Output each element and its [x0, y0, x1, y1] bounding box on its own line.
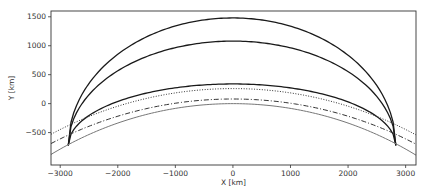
series-trajectory-low — [68, 84, 396, 145]
x-tick-label: 1000 — [281, 169, 300, 178]
y-axis-label: Y [km] — [7, 76, 16, 102]
series-ground — [51, 104, 416, 156]
y-tick-label: −500 — [25, 128, 46, 137]
x-tick-label: −1000 — [163, 169, 189, 178]
x-tick-label: 2000 — [339, 169, 358, 178]
series-trajectory-mid — [68, 41, 396, 145]
y-tick-label: 1000 — [27, 41, 46, 50]
series-trajectory-high — [68, 18, 396, 145]
plot-lines — [51, 18, 416, 155]
y-tick-label: 0 — [41, 99, 46, 108]
x-tick-label: −2000 — [105, 169, 131, 178]
x-tick-label: −3000 — [48, 169, 74, 178]
y-tick-label: 500 — [32, 70, 47, 79]
y-tick-label: 1500 — [27, 12, 46, 21]
x-axis-label: X [km] — [221, 178, 246, 187]
y-axis: −500050010001500 — [25, 12, 51, 137]
trajectory-chart: −3000−2000−10000100020003000 −5000500100… — [0, 0, 433, 190]
x-tick-label: 3000 — [396, 169, 415, 178]
x-tick-label: 0 — [231, 169, 236, 178]
x-axis: −3000−2000−10000100020003000 — [48, 165, 416, 178]
axes-frame — [51, 11, 416, 165]
